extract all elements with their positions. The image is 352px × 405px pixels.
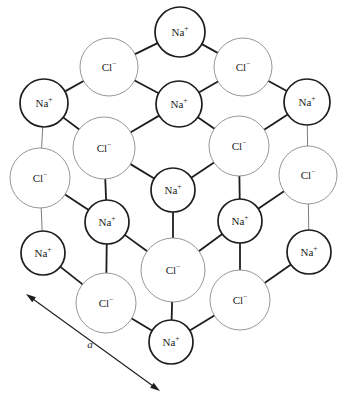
ion-cl-mid-left: Cl−: [73, 117, 135, 179]
ionic-bond-cl-bottom-left-na-bottom: [131, 318, 152, 331]
ion-cl-top-left: Cl−: [80, 38, 138, 96]
ionic-bond-na-left-upper-cl-mid-left: [63, 117, 80, 130]
ionic-bond-cl-bottom-right-na-bottom: [189, 315, 214, 330]
lattice-canvas: Na+Cl−Cl−Na+Na+Na+Cl−Cl−Cl−Cl−Na+Na+Na+N…: [0, 0, 352, 405]
ion-na-center-upper: Na+: [156, 81, 202, 127]
ion-na-far-left-low: Na+: [21, 231, 65, 275]
ionic-bond-cl-top-right-na-right-upper: [268, 81, 287, 92]
ionic-bond-na-top-cl-top-left: [135, 43, 158, 55]
ion-na-top: Na+: [155, 7, 205, 57]
arrowhead-end-icon: [150, 383, 160, 391]
ion-cl-far-right: Cl−: [279, 146, 337, 204]
ion-na-lower-right: Na+: [218, 199, 262, 243]
ion-cl-far-left: Cl−: [10, 148, 70, 208]
ionic-bond-na-center-upper-cl-mid-left: [130, 115, 159, 132]
ionic-bond-na-top-cl-top-right: [201, 44, 218, 53]
ionic-bond-na-lower-right-cl-center-front: [198, 234, 222, 252]
lattice-constant-label: a: [87, 338, 93, 350]
ionic-bond-na-lower-left-cl-center-front: [124, 235, 147, 252]
ionic-bond-cl-top-right-na-center-upper: [198, 81, 218, 92]
ionic-bond-na-right-upper-cl-mid-right: [264, 114, 288, 130]
ionic-bond-na-left-upper-cl-far-left: [42, 126, 43, 148]
ion-cl-bottom-left: Cl−: [76, 273, 136, 333]
ionic-bond-na-far-left-low-cl-bottom-left: [60, 266, 83, 284]
ion-na-lower-left: Na+: [85, 200, 129, 244]
ionic-bond-cl-top-left-na-left-upper: [65, 81, 85, 92]
ionic-bond-cl-far-left-na-lower-left: [65, 194, 89, 210]
ionic-bond-na-center-upper-cl-mid-right: [197, 117, 214, 129]
ionic-bond-cl-mid-left-na-center-mid: [130, 164, 155, 179]
ion-cl-mid-right: Cl−: [209, 116, 269, 176]
ionic-bond-cl-center-front-na-bottom: [172, 301, 173, 320]
ion-cl-bottom-right: Cl−: [210, 270, 270, 330]
ion-na-bottom: Na+: [149, 320, 193, 364]
ion-na-far-right-low: Na+: [287, 230, 331, 274]
arrowhead-start-icon: [26, 294, 36, 302]
ionic-bond-cl-far-left-na-far-left-low: [41, 207, 42, 231]
ionic-bond-cl-mid-left-na-lower-left: [105, 178, 106, 200]
ion-cl-center-front: Cl−: [141, 238, 205, 302]
ionic-bond-cl-mid-right-na-center-mid: [191, 162, 215, 178]
ion-cl-top-right: Cl−: [214, 38, 272, 96]
ionic-bond-cl-top-left-na-center-upper: [134, 80, 159, 93]
ion-na-center-mid: Na+: [151, 168, 195, 212]
ionic-bond-cl-far-right-na-lower-right: [258, 191, 285, 209]
ions-layer: Na+Cl−Cl−Na+Na+Na+Cl−Cl−Cl−Cl−Na+Na+Na+N…: [10, 7, 337, 364]
ion-na-left-upper: Na+: [20, 79, 68, 127]
ion-na-right-upper: Na+: [284, 79, 330, 125]
nacl-lattice-figure: Na+Cl−Cl−Na+Na+Na+Cl−Cl−Cl−Cl−Na+Na+Na+N…: [0, 0, 352, 405]
ionic-bond-na-far-right-low-cl-bottom-right: [264, 264, 291, 283]
